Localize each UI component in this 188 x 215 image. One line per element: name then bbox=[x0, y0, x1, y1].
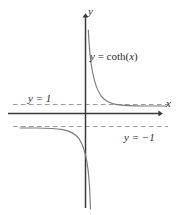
plot-canvas bbox=[0, 0, 188, 215]
y-axis-label: y bbox=[88, 6, 93, 17]
curve-equation-label: y = coth(x) bbox=[90, 51, 138, 62]
curve-branch-negative bbox=[20, 128, 90, 209]
asymptote-label-positive: y = 1 bbox=[28, 93, 51, 104]
asymptote-label-negative: y = −1 bbox=[124, 132, 155, 143]
x-axis-label: x bbox=[166, 98, 171, 109]
curve-branch-positive bbox=[88, 30, 166, 106]
curve-label-equals: = bbox=[95, 50, 107, 62]
coth-function-plot: x y y = coth(x) y = 1 y = −1 bbox=[0, 0, 188, 215]
curve-label-paren-close: ) bbox=[134, 50, 138, 62]
curve-label-function: coth( bbox=[107, 50, 130, 62]
